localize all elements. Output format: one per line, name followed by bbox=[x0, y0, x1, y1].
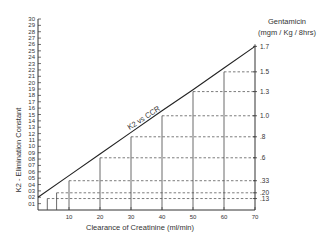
y-tick-label: 24 bbox=[28, 54, 35, 60]
reference-lines bbox=[47, 72, 255, 210]
y-tick-label: 28 bbox=[28, 29, 35, 35]
y-tick-label: 13 bbox=[28, 124, 35, 130]
y-tick-label: 01 bbox=[28, 201, 35, 207]
y-tick-label: 27 bbox=[28, 35, 35, 41]
x-axis: 10203040506070 bbox=[38, 207, 259, 220]
y-tick-label: 21 bbox=[28, 73, 35, 79]
y-tick-label: 05 bbox=[28, 175, 35, 181]
y-tick-label: 11 bbox=[29, 137, 36, 143]
right-tick-label: 1.0 bbox=[260, 112, 269, 119]
right-axis-title-1: Gentamicin bbox=[268, 17, 306, 26]
y-tick-label: 25 bbox=[28, 48, 35, 54]
y-tick-label: 23 bbox=[28, 61, 35, 67]
k2-vs-ccr-line bbox=[38, 46, 255, 197]
y-tick-label: 22 bbox=[28, 67, 35, 73]
y-axis: 0102030405060708091011121314151617181920… bbox=[28, 16, 41, 210]
right-axis: 1.71.51.31.0.8.6.33.20.13 bbox=[253, 43, 269, 210]
right-tick-label: 1.3 bbox=[260, 88, 269, 95]
right-tick-label: .33 bbox=[260, 177, 269, 184]
y-tick-label: 12 bbox=[28, 131, 35, 137]
x-tick-label: 40 bbox=[159, 214, 166, 220]
x-tick-label: 10 bbox=[66, 214, 73, 220]
x-tick-label: 30 bbox=[128, 214, 135, 220]
y-tick-label: 06 bbox=[28, 169, 35, 175]
right-tick-label: .13 bbox=[260, 195, 269, 202]
y-tick-label: 09 bbox=[28, 150, 35, 156]
right-tick-label: .6 bbox=[260, 154, 266, 161]
x-tick-label: 70 bbox=[252, 214, 259, 220]
y-tick-label: 17 bbox=[28, 99, 35, 105]
y-tick-label: 29 bbox=[28, 22, 35, 28]
right-tick-label: 1.5 bbox=[260, 68, 269, 75]
y-tick-label: 10 bbox=[28, 143, 35, 149]
x-tick-label: 50 bbox=[190, 214, 197, 220]
x-axis-title: Clearance of Creatinine (ml/min) bbox=[86, 223, 194, 232]
line-label: K2 vs CCR bbox=[126, 104, 162, 132]
chart: 0102030405060708091011121314151617181920… bbox=[0, 0, 326, 240]
y-axis-title: K2 - Elimination Constant bbox=[14, 107, 23, 193]
right-axis-title-2: (mgm / Kg / 8hrs) bbox=[258, 28, 316, 37]
y-tick-label: 02 bbox=[28, 194, 35, 200]
data-series bbox=[38, 46, 255, 197]
y-tick-label: 14 bbox=[28, 118, 35, 124]
y-tick-label: 19 bbox=[28, 86, 35, 92]
y-tick-label: 03 bbox=[28, 188, 35, 194]
right-tick-label: 1.7 bbox=[260, 43, 269, 50]
right-tick-label: .8 bbox=[260, 133, 266, 140]
y-tick-label: 08 bbox=[28, 156, 35, 162]
y-tick-label: 15 bbox=[28, 112, 35, 118]
y-tick-label: 04 bbox=[28, 182, 35, 188]
y-tick-label: 18 bbox=[28, 92, 35, 98]
y-tick-label: 16 bbox=[28, 105, 35, 111]
x-tick-label: 20 bbox=[97, 214, 104, 220]
y-tick-label: 26 bbox=[28, 41, 35, 47]
y-tick-label: 20 bbox=[28, 80, 35, 86]
y-tick-label: 30 bbox=[28, 16, 35, 22]
x-tick-label: 60 bbox=[221, 214, 228, 220]
y-tick-label: 07 bbox=[28, 162, 35, 168]
